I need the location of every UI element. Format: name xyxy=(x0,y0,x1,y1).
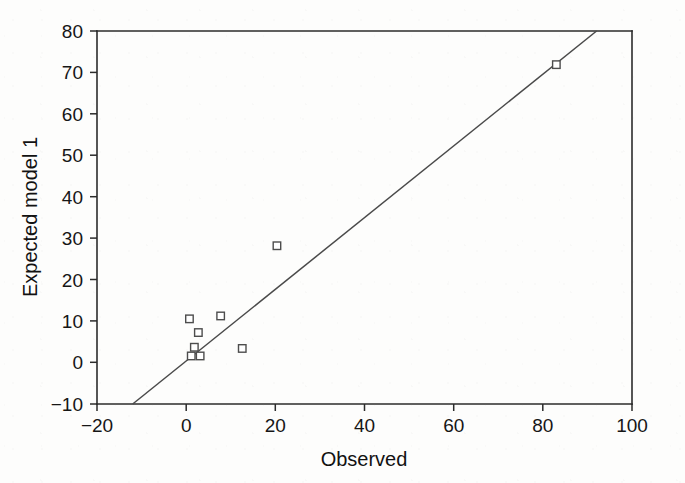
data-point-marker xyxy=(186,315,194,323)
y-tick-label-60: 60 xyxy=(62,104,83,125)
y-tick-label-50: 50 xyxy=(62,145,83,166)
y-tick-label-70: 70 xyxy=(62,62,83,83)
x-tick-label-80: 80 xyxy=(532,415,553,436)
x-axis-title: Observed xyxy=(321,448,408,470)
x-axis-ticks xyxy=(97,404,632,411)
x-tick-label-100: 100 xyxy=(616,415,648,436)
x-tick-label-60: 60 xyxy=(443,415,464,436)
chart-figure: 80 70 60 50 40 30 20 10 0 −10 −20 0 20 4… xyxy=(0,0,685,483)
x-tick-label-20: 20 xyxy=(265,415,286,436)
y-tick-label-40: 40 xyxy=(62,187,83,208)
scatter-plot-svg: 80 70 60 50 40 30 20 10 0 −10 −20 0 20 4… xyxy=(0,0,685,483)
x-tick-label-0: 0 xyxy=(181,415,192,436)
y-axis-tick-labels: 80 70 60 50 40 30 20 10 0 −10 xyxy=(51,21,83,415)
data-point-marker xyxy=(273,242,281,250)
y-axis-ticks xyxy=(90,31,97,404)
data-point-marker xyxy=(188,352,196,360)
y-tick-label-10: 10 xyxy=(62,311,83,332)
y-tick-label-80: 80 xyxy=(62,21,83,42)
y-tick-label-neg10: −10 xyxy=(51,394,83,415)
x-tick-label-neg20: −20 xyxy=(81,415,113,436)
data-point-marker xyxy=(553,61,561,69)
y-tick-label-0: 0 xyxy=(72,352,83,373)
y-tick-label-20: 20 xyxy=(62,270,83,291)
x-axis-tick-labels: −20 0 20 40 60 80 100 xyxy=(81,415,648,436)
data-point-marker xyxy=(196,352,204,360)
data-point-marker xyxy=(191,344,199,352)
data-point-marker xyxy=(217,312,225,320)
y-tick-label-30: 30 xyxy=(62,228,83,249)
reference-fit-line xyxy=(133,31,597,404)
data-point-marker xyxy=(239,345,247,353)
y-axis-title: Expected model 1 xyxy=(19,137,41,297)
x-tick-label-40: 40 xyxy=(354,415,375,436)
data-point-marker xyxy=(195,329,203,337)
